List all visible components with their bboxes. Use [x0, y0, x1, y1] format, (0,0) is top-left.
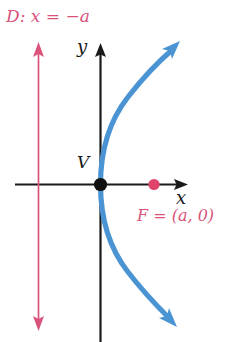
vertex-point [94, 178, 107, 191]
directrix-label: D: x = −a [6, 8, 90, 25]
focus-point [148, 179, 159, 190]
y-axis-label: y [77, 38, 87, 56]
x-axis-label: x [176, 189, 186, 207]
parabola-upper-branch [101, 50, 173, 185]
vertex-label: V [77, 154, 89, 171]
focus-label: F = (a, 0) [137, 208, 214, 224]
parabola-figure: D: x = −a F = (a, 0) V y x [0, 0, 225, 342]
parabola-lower-branch [101, 185, 170, 319]
parabola-diagram-canvas [0, 0, 225, 342]
directrix-line-group [33, 42, 44, 331]
